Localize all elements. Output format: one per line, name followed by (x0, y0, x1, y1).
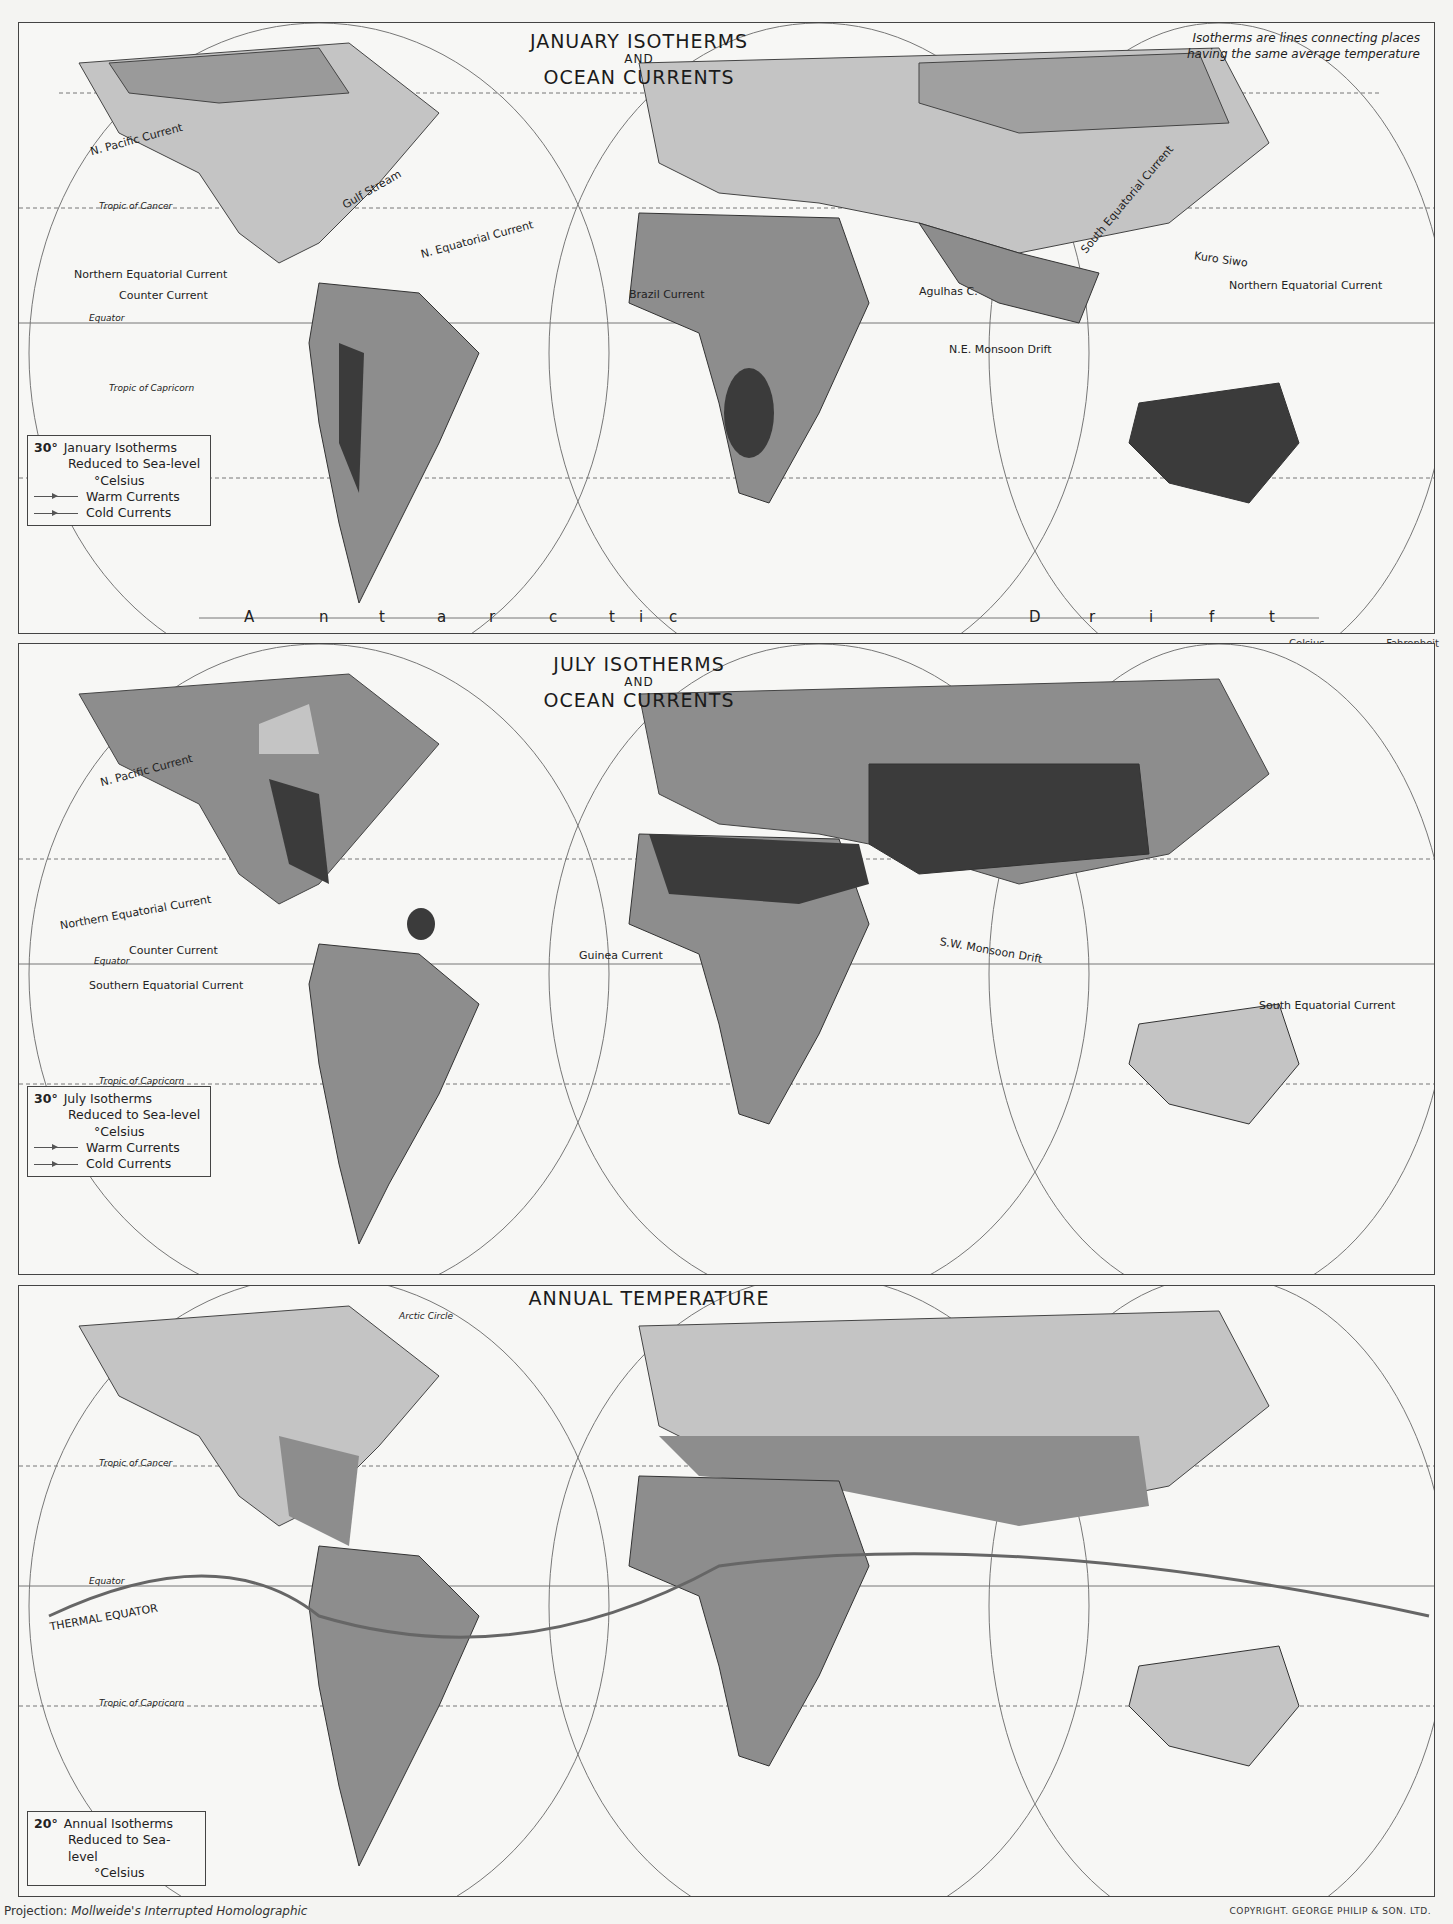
label-tropic-capricorn: Tropic of Capricorn (99, 1698, 184, 1708)
july-legend: 30°July Isotherms Reduced to Sea-level °… (27, 1086, 211, 1177)
legend-line2: Reduced to Sea-level (34, 456, 204, 472)
cold-current-arrow-icon (34, 1164, 78, 1165)
note-line1: Isotherms are lines connecting places (1187, 31, 1420, 47)
drift-letter: c (549, 608, 557, 626)
drift-letter: r (489, 608, 495, 626)
legend-line1: January Isotherms (64, 440, 177, 456)
annual-map-panel: ANNUAL TEMPERATURE Arctic Circle Tropic … (18, 1285, 1435, 1897)
copyright: COPYRIGHT. GEORGE PHILIP & SON. LTD. (1230, 1906, 1431, 1916)
drift-letter: t (609, 608, 615, 626)
drift-letter: D (1029, 608, 1041, 626)
legend-line2: Reduced to Sea-level (34, 1832, 199, 1865)
legend-line2: Reduced to Sea-level (34, 1107, 204, 1123)
january-map-panel: JANUARY ISOTHERMS AND OCEAN CURRENTS Iso… (18, 22, 1435, 634)
annual-map-graphic (19, 1286, 1434, 1896)
title-and: AND (489, 676, 789, 690)
legend-line3: °Celsius (34, 1124, 204, 1140)
label-northern-eq: Northern Equatorial Current (74, 268, 227, 281)
drift-letter: r (1089, 608, 1095, 626)
legend-line1: Annual Isotherms (64, 1816, 173, 1832)
title-and: AND (489, 53, 789, 67)
drift-letter: c (669, 608, 677, 626)
label-counter: Counter Current (119, 289, 208, 302)
label-counter: Counter Current (129, 944, 218, 957)
drift-letter: f (1209, 608, 1214, 626)
label-counter-east: Northern Equatorial Current (1229, 279, 1382, 292)
cold-current-arrow-icon (34, 513, 78, 514)
legend-cold: Cold Currents (86, 505, 171, 521)
label-guinea: Guinea Current (579, 949, 663, 962)
legend-warm: Warm Currents (86, 489, 180, 505)
drift-letter: t (1269, 608, 1275, 626)
projection-name: Mollweide's Interrupted Homolographic (71, 1904, 307, 1918)
july-title: JULY ISOTHERMS AND OCEAN CURRENTS (489, 654, 789, 711)
warm-current-arrow-icon (34, 1147, 78, 1148)
label-tropic-capricorn: Tropic of Capricorn (109, 383, 194, 393)
label-southern-eq: Southern Equatorial Current (89, 979, 243, 992)
legend-line3: °Celsius (34, 473, 204, 489)
legend-line3: °Celsius (34, 1865, 199, 1881)
label-guinea: Brazil Current (629, 288, 705, 301)
legend-warm: Warm Currents (86, 1140, 180, 1156)
july-map-graphic (19, 644, 1434, 1274)
label-equator: Equator (89, 313, 124, 323)
legend-degree: 20° (34, 1816, 58, 1832)
label-tropic-cancer: Tropic of Cancer (99, 201, 172, 211)
label-equator: Equator (94, 956, 129, 966)
title-line2: OCEAN CURRENTS (544, 66, 735, 88)
january-map-graphic (19, 23, 1434, 633)
projection-label: Projection: (4, 1904, 67, 1918)
label-south-eq: N.E. Monsoon Drift (949, 343, 1052, 356)
label-tropic-capricorn: Tropic of Capricorn (99, 1076, 184, 1086)
warm-current-arrow-icon (34, 496, 78, 497)
drift-letter: A (244, 608, 254, 626)
label-tropic-cancer: Tropic of Cancer (99, 1458, 172, 1468)
note-line2: having the same average temperature (1187, 47, 1420, 63)
title-line2: OCEAN CURRENTS (544, 689, 735, 711)
drift-letter: n (319, 608, 329, 626)
isotherm-definition-note: Isotherms are lines connecting places ha… (1187, 31, 1420, 62)
july-map-panel: JULY ISOTHERMS AND OCEAN CURRENTS N. Pac… (18, 643, 1435, 1275)
label-arctic-circle: Arctic Circle (399, 1311, 453, 1321)
drift-letter: i (639, 608, 643, 626)
label-equator: Equator (89, 1576, 124, 1586)
drift-letter: t (379, 608, 385, 626)
legend-cold: Cold Currents (86, 1156, 171, 1172)
label-ne-monsoon: Agulhas C. (919, 285, 978, 298)
january-title: JANUARY ISOTHERMS AND OCEAN CURRENTS (489, 31, 789, 88)
drift-letter: a (437, 608, 446, 626)
january-legend: 30°January Isotherms Reduced to Sea-leve… (27, 435, 211, 526)
label-south-eq-east: South Equatorial Current (1259, 999, 1395, 1012)
drift-letter: i (1149, 608, 1153, 626)
annual-title: ANNUAL TEMPERATURE (499, 1288, 799, 1310)
title-line1: JULY ISOTHERMS (553, 653, 724, 675)
annual-legend: 20°Annual Isotherms Reduced to Sea-level… (27, 1811, 206, 1886)
legend-degree: 30° (34, 440, 58, 456)
title-line1: ANNUAL TEMPERATURE (528, 1287, 769, 1309)
legend-line1: July Isotherms (64, 1091, 152, 1107)
projection-caption: Projection: Mollweide's Interrupted Homo… (4, 1904, 307, 1918)
legend-degree: 30° (34, 1091, 58, 1107)
title-line1: JANUARY ISOTHERMS (530, 30, 748, 52)
